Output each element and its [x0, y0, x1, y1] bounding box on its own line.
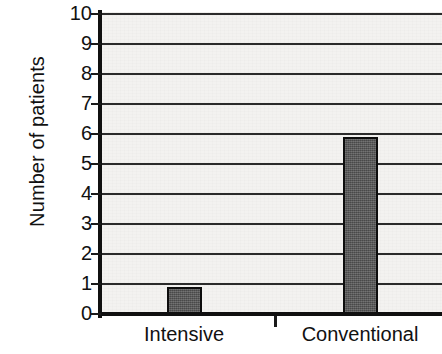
y-axis-tick-label: 2 [52, 243, 92, 263]
gridline [100, 163, 442, 165]
bar [343, 137, 378, 314]
y-axis-tick-mark [91, 253, 101, 255]
x-axis-tick-label: Intensive [94, 322, 274, 346]
y-axis-tick-label: 1 [52, 273, 92, 293]
gridline [100, 253, 442, 255]
y-axis-tick-label: 8 [52, 63, 92, 83]
y-axis-tick-label: 9 [52, 33, 92, 53]
gridline [100, 103, 442, 105]
y-axis-tick-label: 7 [52, 93, 92, 113]
y-axis-tick-label: 6 [52, 123, 92, 143]
y-axis-tick-mark [91, 313, 101, 315]
y-axis-tick-mark [91, 223, 101, 225]
y-axis-tick-label: 3 [52, 213, 92, 233]
plot-area [100, 12, 442, 316]
gridline [100, 193, 442, 195]
y-axis-tick-label: 4 [52, 183, 92, 203]
x-axis-tick-label: Conventional [270, 322, 442, 346]
gridline [100, 223, 442, 225]
y-axis-tick-label: 5 [52, 153, 92, 173]
y-axis-tick-label: 10 [52, 3, 92, 23]
bar [167, 287, 202, 314]
y-axis-tick-mark [91, 73, 101, 75]
y-axis-tick-mark [91, 163, 101, 165]
y-axis-tick-labels: 012345678910 [52, 0, 92, 354]
y-axis-tick-mark [91, 283, 101, 285]
gridline [100, 43, 442, 45]
y-axis-title: Number of patients [26, 17, 49, 267]
gridline [100, 73, 442, 75]
bar-chart-figure: Number of patients 012345678910 Intensiv… [0, 0, 442, 354]
gridline [100, 283, 442, 285]
y-axis-tick-mark [91, 103, 101, 105]
gridline [100, 133, 442, 135]
y-axis-tick-mark [91, 43, 101, 45]
y-axis-tick-mark [91, 133, 101, 135]
y-axis-tick-mark [91, 13, 101, 15]
y-axis-tick-label: 0 [52, 303, 92, 323]
x-axis-tick-labels: IntensiveConventional [100, 322, 442, 354]
y-axis-tick-mark [91, 193, 101, 195]
gridline [100, 13, 442, 15]
x-axis-line [98, 312, 442, 316]
